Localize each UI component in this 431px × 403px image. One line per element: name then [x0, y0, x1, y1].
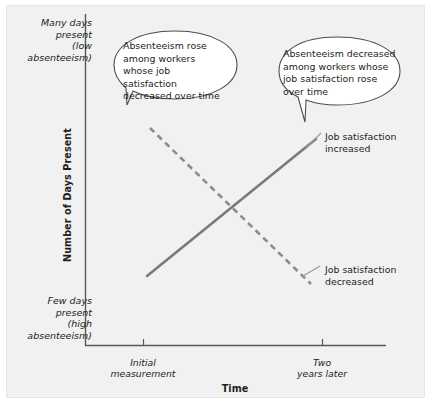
x-axis-title: Time — [85, 383, 385, 394]
series-line-job-satisfaction-decreased — [150, 128, 311, 284]
y-axis-top-line-1: present — [0, 29, 92, 41]
series-label-1-line-0: Job satisfaction — [325, 264, 425, 276]
x-tick-label-1: Two years later — [267, 357, 377, 379]
series-label-0-line-1: increased — [325, 143, 425, 155]
callout-left-text: Absenteeism rose among workers whose job… — [123, 40, 227, 103]
x-tick-label-0-line-1: measurement — [88, 368, 198, 379]
figure-container: Many days present (low absenteeism) Few … — [0, 0, 431, 403]
y-axis-top-annotation: Many days present (low absenteeism) — [0, 17, 92, 63]
series-label-0-line-0: Job satisfaction — [325, 131, 425, 143]
y-axis-bottom-line-3: absenteeism) — [0, 330, 92, 342]
y-axis-top-line-0: Many days — [0, 17, 92, 29]
x-tick-label-0: Initial measurement — [88, 357, 198, 379]
y-axis-top-line-2: (low — [0, 40, 92, 52]
y-axis-title: Number of Days Present — [62, 128, 73, 262]
leader-line-decreased — [303, 266, 320, 276]
series-line-job-satisfaction-increased — [147, 139, 316, 276]
x-tick-label-1-line-1: years later — [267, 368, 377, 379]
y-axis-top-line-3: absenteeism) — [0, 52, 92, 64]
x-tick-label-0-line-0: Initial — [88, 357, 198, 368]
callout-right-text: Absenteeism decreased among workers whos… — [283, 48, 398, 98]
series-label-job-satisfaction-increased: Job satisfaction increased — [325, 131, 425, 155]
y-axis-bottom-line-2: (high — [0, 318, 92, 330]
series-label-1-line-1: decreased — [325, 276, 425, 288]
x-tick-label-1-line-0: Two — [267, 357, 377, 368]
series-label-job-satisfaction-decreased: Job satisfaction decreased — [325, 264, 425, 288]
leader-line-increased — [306, 133, 321, 148]
y-axis-bottom-annotation: Few days present (high absenteeism) — [0, 295, 92, 341]
y-axis-bottom-line-0: Few days — [0, 295, 92, 307]
y-axis-bottom-line-1: present — [0, 307, 92, 319]
